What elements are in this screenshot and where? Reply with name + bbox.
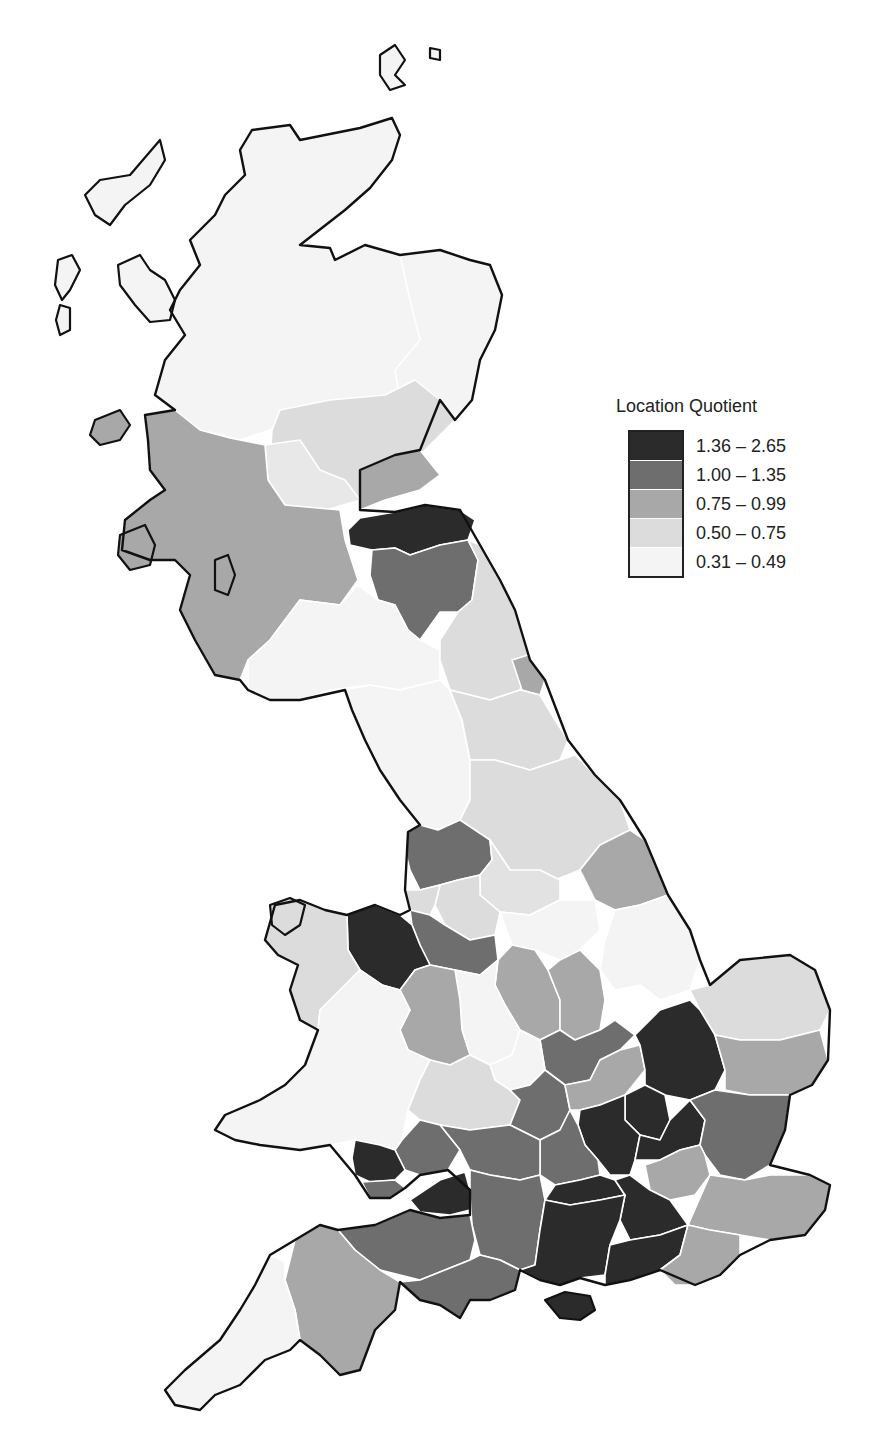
legend-label-3: 0.75 – 0.99 — [696, 494, 786, 515]
legend-label-1: 1.36 – 2.65 — [696, 436, 786, 457]
legend-label-4: 0.50 – 0.75 — [696, 523, 786, 544]
island-skye — [118, 255, 175, 322]
legend-title: Location Quotient — [616, 396, 757, 417]
region-lincolnshire — [600, 895, 700, 1000]
legend-swatch-3 — [630, 490, 682, 519]
legend-swatch-4 — [630, 519, 682, 548]
legend-swatches — [628, 430, 684, 578]
legend-swatch-5 — [630, 548, 682, 576]
legend-swatch-2 — [630, 461, 682, 490]
island-barra — [56, 305, 70, 335]
gb-choropleth-map — [0, 0, 876, 1450]
island-lewis — [85, 140, 165, 225]
region-isle-of-wight — [545, 1292, 595, 1320]
island-uist — [55, 255, 80, 300]
island-mull — [90, 410, 130, 445]
island-orkney — [380, 45, 405, 90]
legend-swatch-1 — [630, 432, 682, 461]
island-orkney-2 — [430, 48, 440, 60]
region-avon — [410, 1172, 470, 1215]
legend-label-2: 1.00 – 1.35 — [696, 465, 786, 486]
legend-label-5: 0.31 – 0.49 — [696, 552, 786, 573]
